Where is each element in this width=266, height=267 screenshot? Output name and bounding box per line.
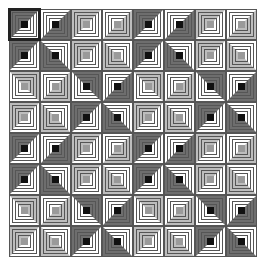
center-square: [83, 52, 90, 59]
center-square: [145, 83, 152, 90]
quilt-tile[interactable]: [133, 195, 164, 226]
quilt-tile[interactable]: [226, 9, 257, 40]
quilt-tile[interactable]: [9, 71, 40, 102]
quilt-tile[interactable]: [164, 226, 195, 257]
quilt-tile[interactable]: [9, 102, 40, 133]
quilt-tile[interactable]: [9, 9, 40, 40]
quilt-tile[interactable]: [195, 133, 226, 164]
center-square: [176, 83, 183, 90]
center-square: [238, 176, 245, 183]
center-square: [21, 238, 28, 245]
quilt-tile[interactable]: [71, 71, 102, 102]
center-square: [207, 207, 214, 214]
quilt-tile[interactable]: [226, 40, 257, 71]
center-square: [238, 21, 245, 28]
quilt-tile[interactable]: [9, 133, 40, 164]
center-square: [21, 83, 28, 90]
quilt-tile[interactable]: [226, 71, 257, 102]
center-square: [114, 145, 121, 152]
quilt-tile[interactable]: [195, 164, 226, 195]
center-square: [145, 207, 152, 214]
quilt-tile[interactable]: [164, 164, 195, 195]
quilt-tile[interactable]: [40, 164, 71, 195]
quilt-tile[interactable]: [9, 40, 40, 71]
quilt-tile[interactable]: [164, 133, 195, 164]
center-square: [176, 21, 183, 28]
quilt-tile[interactable]: [40, 102, 71, 133]
center-square: [207, 238, 214, 245]
center-square: [238, 238, 245, 245]
quilt-tile[interactable]: [102, 133, 133, 164]
quilt-tile[interactable]: [226, 226, 257, 257]
quilt-tile[interactable]: [102, 102, 133, 133]
quilt-tile[interactable]: [9, 226, 40, 257]
quilt-tile[interactable]: [71, 9, 102, 40]
quilt-tile[interactable]: [164, 195, 195, 226]
quilt-tile[interactable]: [102, 164, 133, 195]
quilt-tile[interactable]: [102, 226, 133, 257]
center-square: [176, 145, 183, 152]
quilt-tile[interactable]: [71, 195, 102, 226]
quilt-tile[interactable]: [195, 40, 226, 71]
center-square: [52, 21, 59, 28]
center-square: [83, 176, 90, 183]
center-square: [52, 114, 59, 121]
center-square: [21, 52, 28, 59]
quilt-tile[interactable]: [71, 102, 102, 133]
center-square: [114, 114, 121, 121]
center-square: [238, 145, 245, 152]
quilt-tile[interactable]: [226, 195, 257, 226]
quilt-tile[interactable]: [71, 40, 102, 71]
quilt-tile[interactable]: [102, 9, 133, 40]
quilt-tile[interactable]: [71, 164, 102, 195]
quilt-tile[interactable]: [164, 9, 195, 40]
quilt-tile[interactable]: [226, 102, 257, 133]
quilt-tile[interactable]: [195, 71, 226, 102]
quilt-tile[interactable]: [133, 102, 164, 133]
quilt-tile[interactable]: [40, 226, 71, 257]
quilt-board: [9, 9, 257, 257]
center-square: [114, 176, 121, 183]
quilt-tile[interactable]: [164, 71, 195, 102]
quilt-tile[interactable]: [40, 40, 71, 71]
center-square: [176, 207, 183, 214]
center-square: [176, 238, 183, 245]
quilt-tile[interactable]: [40, 195, 71, 226]
quilt-tile[interactable]: [133, 226, 164, 257]
quilt-tile[interactable]: [133, 71, 164, 102]
quilt-tile[interactable]: [40, 71, 71, 102]
quilt-tile[interactable]: [102, 40, 133, 71]
quilt-tile[interactable]: [71, 226, 102, 257]
quilt-tile[interactable]: [195, 226, 226, 257]
quilt-tile[interactable]: [164, 102, 195, 133]
center-square: [207, 145, 214, 152]
quilt-tile[interactable]: [40, 133, 71, 164]
center-square: [114, 207, 121, 214]
quilt-tile[interactable]: [164, 40, 195, 71]
quilt-tile[interactable]: [133, 40, 164, 71]
center-square: [21, 207, 28, 214]
center-square: [83, 145, 90, 152]
center-square: [52, 83, 59, 90]
quilt-tile[interactable]: [71, 133, 102, 164]
center-square: [21, 114, 28, 121]
quilt-tile[interactable]: [195, 102, 226, 133]
quilt-tile[interactable]: [9, 195, 40, 226]
center-square: [145, 238, 152, 245]
quilt-tile[interactable]: [226, 133, 257, 164]
center-square: [114, 83, 121, 90]
quilt-tile[interactable]: [102, 195, 133, 226]
quilt-tile[interactable]: [133, 9, 164, 40]
quilt-tile[interactable]: [226, 164, 257, 195]
quilt-tile[interactable]: [40, 9, 71, 40]
center-square: [238, 83, 245, 90]
quilt-tile[interactable]: [102, 71, 133, 102]
quilt-tile[interactable]: [195, 9, 226, 40]
quilt-tile[interactable]: [133, 133, 164, 164]
center-square: [176, 114, 183, 121]
quilt-tile[interactable]: [133, 164, 164, 195]
quilt-tile[interactable]: [9, 164, 40, 195]
center-square: [52, 176, 59, 183]
quilt-tile[interactable]: [195, 195, 226, 226]
center-square: [176, 52, 183, 59]
